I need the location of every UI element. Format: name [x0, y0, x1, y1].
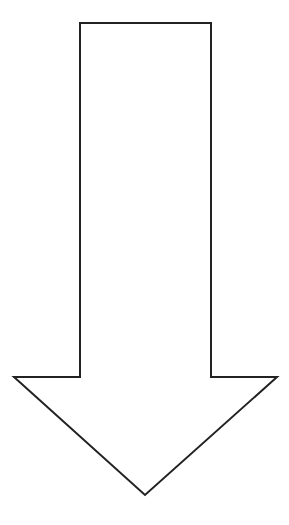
- diagram-canvas: [0, 0, 289, 525]
- down-arrow-svg: [0, 0, 289, 525]
- down-arrow-icon: [14, 23, 277, 495]
